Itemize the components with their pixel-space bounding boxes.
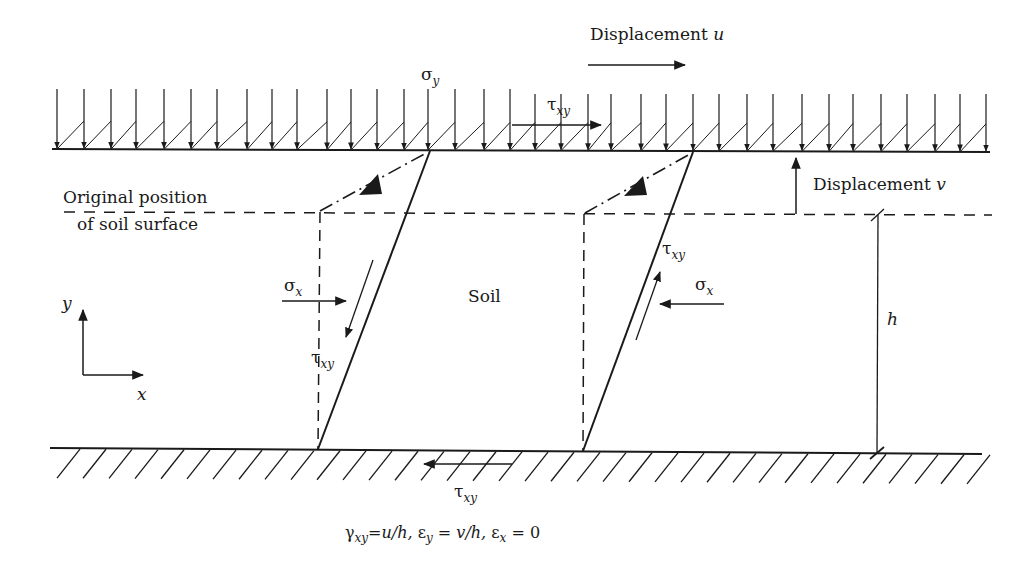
tau-xy-right-label: τxy [662,238,685,262]
ground-hatch-line [915,455,938,484]
ground-hatch-line [239,450,262,479]
ground-hatch-line [525,452,548,481]
shear-tick [84,121,111,149]
shear-tick [960,124,986,152]
shear-tick [829,123,853,151]
shear-tick [561,123,588,151]
displacement-u-label: Displacement u [590,24,724,44]
ground-hatch-line [811,454,834,483]
ground-hatch-line [265,450,288,479]
soil-shear-diagram: Displacement u σy τxy Original position … [0,0,1024,569]
coordinate-axes: y x [61,293,147,404]
ground-hatch-line [421,451,444,480]
ground-hatch-line [551,452,574,481]
ground-hatch-line [499,452,522,481]
shear-tick [747,123,773,151]
ground-hatch-line [941,455,964,484]
tau-xy-bottom-label: τxy [454,481,477,505]
shear-tick [111,121,136,149]
shear-tick [510,122,535,150]
ground-hatch-line [967,455,990,484]
element-left-deformed-edge [318,151,430,449]
shear-tick [588,123,611,151]
ground-hatch-line [681,453,704,482]
ground-hatch-line [863,454,886,483]
displacement-v-label: Displacement v [813,174,946,194]
ground-hatch-line [889,454,912,483]
shear-tick [404,122,428,150]
element-right-deformed-edge [583,152,693,451]
shear-tick [136,121,164,149]
shear-tick [535,123,561,151]
ground-hatching [57,449,990,484]
shear-tick [935,124,960,152]
element-left-original-edge [318,212,320,449]
ground-hatch-line [603,453,626,482]
soil-element-left: σx τxy [282,151,430,449]
shear-tick [802,123,829,151]
tau-xy-left-label: τxy [311,347,334,371]
element-right-original-edge [583,214,584,451]
ground-hatch-line [213,450,236,479]
ground-hatch-line [785,454,808,483]
ground-hatch-line [369,451,392,480]
ground-hatch-line [629,453,652,482]
shear-tick [907,124,935,152]
ground-hatch-line [343,451,366,480]
shear-tick [272,122,297,150]
ground-hatch-line [83,449,106,478]
shear-tick [773,123,802,151]
strain-equation: γxy=u/h, εy = v/h, εx = 0 [345,523,540,545]
shear-tick [327,122,351,150]
sigma-x-left-label: σx [284,275,303,299]
x-axis-label: x [137,384,147,404]
ground-hatch-line [187,450,210,479]
tau-xy-left-arrow [346,260,373,337]
ground-hatch-line [837,454,860,483]
top-surface [52,89,990,152]
ground-base: τxy [50,448,990,505]
ground-hatch-line [57,449,80,478]
shear-tick [297,122,327,150]
element-left-displacement-arrowhead [359,174,382,195]
shear-tick [377,122,404,150]
original-position-label-line2: of soil surface [77,214,198,234]
shear-tick [247,122,272,150]
ground-hatch-line [473,452,496,481]
shear-tick [881,124,907,152]
ground-hatch-line [707,453,730,482]
shear-tick [484,122,510,150]
ground-hatch-line [655,453,678,482]
shear-tick [164,121,191,149]
shear-tick [853,124,881,152]
ground-hatch-line [291,451,314,480]
ground-hatch-line [135,450,158,479]
displacement-v: Displacement v [796,158,946,214]
ground-line [50,448,982,454]
soil-element-right: τxy σx [583,152,724,451]
soil-label: Soil [468,286,501,306]
shear-tick [719,123,747,151]
shear-tick [693,123,719,151]
y-axis-label: y [61,293,72,313]
element-right-displacement-arrowhead [624,176,647,196]
shear-tick [611,123,641,151]
tau-xy-right-arrow [636,272,660,340]
original-position-label-line1: Original position [63,187,208,207]
height-dimension: h [870,209,898,459]
shear-tick [455,122,484,150]
sigma-y-label: σy [421,64,440,88]
sigma-x-right-label: σx [695,274,714,298]
ground-hatch-line [317,451,340,480]
original-surface-line [64,212,992,215]
shear-tick [217,122,247,150]
top-surface-line [52,149,990,152]
h-label: h [887,309,898,329]
shear-tick [666,123,693,151]
ground-hatch-line [109,449,132,478]
ground-hatch-line [395,451,418,480]
tau-xy-top-label: τxy [547,94,570,118]
ground-hatch-line [577,452,600,481]
shear-tick [428,122,455,150]
shear-tick [191,121,217,149]
